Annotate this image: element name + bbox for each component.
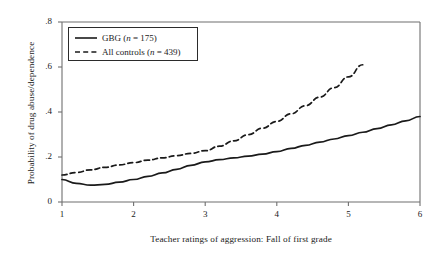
- x-tick-label: 1: [52, 209, 72, 219]
- chart-legend: GBG (n = 175) All controls (n = 439): [68, 27, 198, 61]
- legend-label-gbg: GBG (n = 175): [102, 33, 157, 43]
- legend-entry-gbg: GBG (n = 175): [75, 30, 157, 45]
- x-tick-label: 3: [195, 209, 215, 219]
- x-axis-ticks: [62, 202, 420, 206]
- legend-label-all-controls: All controls (n = 439): [102, 47, 181, 57]
- solid-line-swatch: [75, 33, 97, 43]
- y-tick-label: 0: [28, 196, 52, 206]
- series-line-gbg: [62, 117, 420, 186]
- data-series-group: [62, 65, 420, 185]
- x-axis-title: Teacher ratings of aggression: Fall of f…: [62, 234, 420, 244]
- x-tick-label: 6: [410, 209, 430, 219]
- chart-figure: Probability of drug abuse/dependence Tea…: [0, 0, 441, 259]
- dashed-line-swatch: [75, 47, 97, 57]
- legend-entry-all-controls: All controls (n = 439): [75, 44, 181, 59]
- y-tick-label: .2: [28, 151, 52, 161]
- x-tick-label: 4: [267, 209, 287, 219]
- y-tick-label: .8: [28, 16, 52, 26]
- y-tick-label: .4: [28, 106, 52, 116]
- x-tick-label: 5: [338, 209, 358, 219]
- series-line-all-controls: [62, 65, 363, 175]
- plot-canvas: [0, 0, 441, 259]
- y-tick-label: .6: [28, 61, 52, 71]
- x-tick-label: 2: [124, 209, 144, 219]
